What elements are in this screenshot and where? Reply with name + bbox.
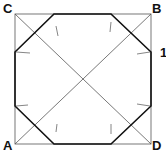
arc-tick-marks — [16, 22, 150, 134]
label-side-1: 1 — [160, 45, 166, 60]
label-b: B — [152, 1, 161, 16]
label-c: C — [3, 1, 13, 16]
label-d: D — [152, 138, 161, 151]
label-a: A — [3, 138, 13, 151]
octagon-in-square-diagram: C B A D 1 — [0, 0, 166, 151]
